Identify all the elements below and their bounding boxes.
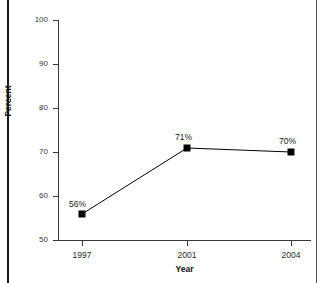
series-line-percent [0,0,324,283]
y-axis-title: Percent [3,71,13,131]
data-label-2004: 70% [279,137,296,146]
chart-figure: 100 90 80 70 60 50 1997 2001 2004 56% 71… [0,0,324,283]
data-point-2001 [184,145,191,152]
data-label-1997: 56% [69,200,86,209]
data-point-2004 [288,149,295,156]
x-axis-title: Year [58,264,311,274]
data-point-1997 [79,211,86,218]
data-label-2001: 71% [175,133,192,142]
